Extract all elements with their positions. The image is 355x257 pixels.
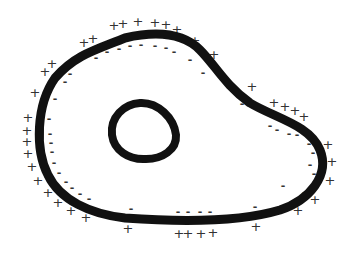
- negative-charge-icon: -: [268, 119, 273, 132]
- positive-charge-icon: +: [161, 17, 172, 32]
- negative-charge-icon: -: [78, 187, 83, 200]
- negative-charge-icon: -: [275, 123, 280, 136]
- negative-charge-icon: -: [52, 156, 57, 169]
- positive-charge-icon: +: [30, 85, 41, 100]
- negative-charge-icon: -: [63, 75, 68, 88]
- negative-charge-icon: -: [64, 175, 69, 188]
- positive-charge-icon: +: [251, 219, 262, 234]
- cell-charge-diagram: +++++++++++++++++++++++++++++++++++++++-…: [0, 0, 355, 257]
- positive-charge-icon: +: [299, 109, 310, 124]
- negative-charge-icon: -: [129, 202, 134, 215]
- positive-charge-icon: +: [133, 14, 144, 29]
- negative-charge-icon: -: [281, 179, 286, 192]
- positive-charge-icon: +: [247, 79, 258, 94]
- negative-charge-icon: -: [186, 205, 191, 218]
- negative-charge-icon: -: [87, 192, 92, 205]
- positive-charge-icon: +: [196, 226, 207, 241]
- positive-charge-icon: +: [183, 226, 194, 241]
- negative-charge-icon: -: [253, 200, 258, 213]
- negative-charge-icon: -: [287, 127, 292, 140]
- negative-charge-icon: -: [188, 53, 193, 66]
- positive-charge-icon: +: [118, 16, 129, 31]
- positive-charge-icon: +: [27, 159, 38, 174]
- negative-charge-icon: -: [308, 158, 313, 171]
- negative-charge-icon: -: [70, 181, 75, 194]
- negative-charge-icon: -: [176, 205, 181, 218]
- positive-charge-icon: +: [325, 173, 336, 188]
- cell-nucleus: [112, 103, 176, 159]
- negative-charge-icon: -: [47, 112, 52, 125]
- positive-charge-icon: +: [327, 154, 338, 169]
- negative-charge-icon: -: [153, 39, 158, 52]
- positive-charge-icon: +: [88, 31, 99, 46]
- positive-charge-icon: +: [269, 95, 280, 110]
- negative-charge-icon: -: [164, 41, 169, 54]
- negative-charge-icon: -: [198, 205, 203, 218]
- positive-charge-icon: +: [208, 225, 219, 240]
- positive-charge-icon: +: [150, 15, 161, 30]
- positive-charge-icon: +: [47, 56, 58, 71]
- negative-charge-icon: -: [57, 166, 62, 179]
- negative-charge-icon: -: [172, 45, 177, 58]
- negative-charge-icon: -: [201, 66, 206, 79]
- negative-charge-icon: -: [53, 92, 58, 105]
